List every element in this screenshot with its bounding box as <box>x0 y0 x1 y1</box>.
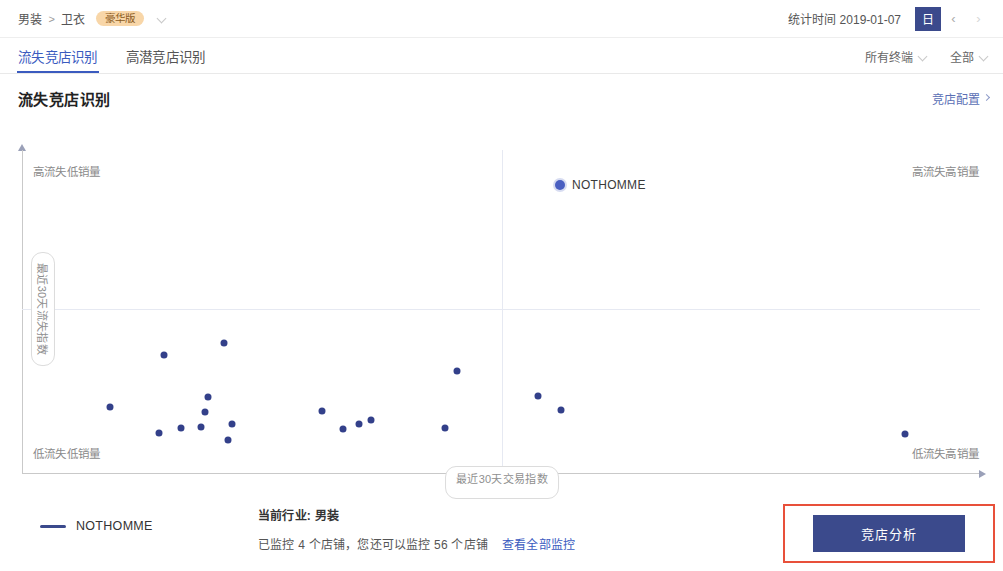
scatter-point[interactable] <box>454 367 461 374</box>
page-title: 流失竞店识别 <box>18 88 110 109</box>
competitor-config-link[interactable]: 竞店配置 <box>932 90 989 107</box>
top-bar: 男装 > 卫衣 豪华版 统计时间 2019-01-07 日 ‹ › <box>0 0 1003 38</box>
y-axis-title: 最近30天流失指数 <box>31 252 55 366</box>
monitor-status-text: 已监控 4 个店铺，您还可以监控 56 个店铺 <box>258 535 488 552</box>
scatter-point[interactable] <box>220 340 227 347</box>
legend-color-swatch <box>40 525 66 528</box>
scatter-point[interactable] <box>367 417 374 424</box>
scatter-point[interactable] <box>557 406 564 413</box>
prev-date-button[interactable]: ‹ <box>941 7 966 31</box>
primary-button-highlight-box: 竞店分析 <box>783 504 995 563</box>
breadcrumb-separator: > <box>47 13 55 25</box>
quadrant-label-bottom-right: 低流失高销量 <box>909 444 982 462</box>
view-all-monitor-link[interactable]: 查看全部监控 <box>502 535 575 552</box>
chart-plot-area[interactable]: 高流失低销量 高流失高销量 低流失低销量 低流失高销量 最近30天流失指数 NO… <box>18 144 986 474</box>
scatter-point[interactable] <box>198 423 205 430</box>
quadrant-vertical-divider <box>502 150 503 474</box>
tab-list: 流失竞店识别 高潜竞店识别 <box>18 38 206 73</box>
scatter-point[interactable] <box>106 403 113 410</box>
card-footer: NOTHOMME 当前行业: 男装 已监控 4 个店铺，您还可以监控 56 个店… <box>0 497 1003 571</box>
scatter-point-label: NOTHOMME <box>572 178 646 192</box>
quadrant-label-bottom-left: 低流失低销量 <box>30 444 103 462</box>
breadcrumb-root[interactable]: 男装 <box>18 10 42 27</box>
scatter-point[interactable] <box>535 392 542 399</box>
monitor-status-row: 已监控 4 个店铺，您还可以监控 56 个店铺 查看全部监控 <box>258 535 575 552</box>
next-date-button[interactable]: › <box>966 7 991 31</box>
scatter-point[interactable] <box>160 352 167 359</box>
scatter-point[interactable] <box>339 425 346 432</box>
tab-potential-competitor[interactable]: 高潜竞店识别 <box>126 46 206 73</box>
breadcrumb-current[interactable]: 卫衣 <box>61 10 85 27</box>
quadrant-label-top-left: 高流失低销量 <box>30 162 103 180</box>
scatter-point[interactable] <box>441 425 448 432</box>
x-axis-arrow-icon <box>979 470 986 478</box>
competitor-config-label: 竞店配置 <box>932 90 980 107</box>
quadrant-label-top-right: 高流失高销量 <box>909 162 982 180</box>
date-mode-day-button[interactable]: 日 <box>915 7 941 31</box>
chevron-right-icon <box>983 93 990 100</box>
chevron-down-icon <box>919 52 928 61</box>
scatter-chart: 高流失低销量 高流失高销量 低流失低销量 低流失高销量 最近30天流失指数 NO… <box>18 144 986 489</box>
legend-label: NOTHOMME <box>76 519 153 533</box>
chart-legend-item[interactable]: NOTHOMME <box>40 519 153 533</box>
edition-badge: 豪华版 <box>96 11 144 27</box>
chevron-down-icon[interactable] <box>158 14 167 23</box>
y-axis-line <box>22 150 23 474</box>
scatter-point[interactable] <box>204 394 211 401</box>
filter-terminal-label: 所有终端 <box>865 48 913 65</box>
app-page: 男装 > 卫衣 豪华版 统计时间 2019-01-07 日 ‹ › 流失竞店识别… <box>0 0 1003 571</box>
filter-scope-label: 全部 <box>950 48 974 65</box>
footer-info: 当前行业: 男装 已监控 4 个店铺，您还可以监控 56 个店铺 查看全部监控 <box>258 506 575 552</box>
filter-scope-select[interactable]: 全部 <box>950 48 989 65</box>
current-industry-label: 当前行业: 男装 <box>258 506 575 523</box>
top-bar-right: 统计时间 2019-01-07 日 ‹ › <box>788 7 991 31</box>
scatter-point[interactable] <box>318 408 325 415</box>
scatter-point[interactable] <box>228 420 235 427</box>
scatter-point[interactable] <box>901 431 908 438</box>
quadrant-horizontal-divider <box>22 309 980 310</box>
x-axis-title: 最近30天交易指数 <box>445 466 559 499</box>
breadcrumb: 男装 > 卫衣 豪华版 <box>18 10 167 27</box>
stat-time-label: 统计时间 2019-01-07 <box>788 10 901 27</box>
chevron-down-icon <box>980 52 989 61</box>
scatter-point[interactable] <box>178 424 185 431</box>
tabs-bar: 流失竞店识别 高潜竞店识别 所有终端 全部 <box>0 38 1003 74</box>
tab-churn-competitor[interactable]: 流失竞店识别 <box>18 46 98 73</box>
scatter-point[interactable] <box>224 437 231 444</box>
filter-terminal-select[interactable]: 所有终端 <box>865 48 928 65</box>
tabs-filters: 所有终端 全部 <box>865 48 989 73</box>
competitor-analysis-button[interactable]: 竞店分析 <box>813 515 965 552</box>
scatter-point[interactable] <box>555 180 565 190</box>
scatter-point[interactable] <box>156 430 163 437</box>
scatter-point[interactable] <box>356 420 363 427</box>
card-header: 流失竞店识别 竞店配置 <box>0 74 1003 122</box>
scatter-point[interactable] <box>201 409 208 416</box>
